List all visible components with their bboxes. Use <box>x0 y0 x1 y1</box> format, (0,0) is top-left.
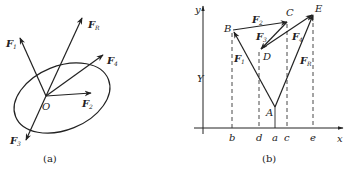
force-arrow-f4 <box>46 55 103 96</box>
tick-label-d: d <box>256 132 262 143</box>
force-label-f2: F2 <box>81 98 93 110</box>
vector-f4 <box>261 15 312 49</box>
point-label-b: B <box>223 23 231 34</box>
vector-label-f3: F3 <box>255 31 267 43</box>
tick-label-e: e <box>310 132 316 143</box>
y-annotation: Y <box>197 73 205 84</box>
figure-a: F1 FR F4 F2 F3 O (a) <box>4 18 121 164</box>
origin-label: O <box>42 101 50 112</box>
vector-label-f4: F4 <box>291 31 303 43</box>
tick-label-c: c <box>284 132 290 143</box>
tick-label-a: a <box>272 132 278 143</box>
vector-label-f1: F1 <box>233 53 245 65</box>
force-arrow-f1 <box>20 38 46 96</box>
force-label-f1: F1 <box>5 38 17 50</box>
body-ellipse <box>4 50 121 147</box>
vector-label-f2: F2 <box>251 14 263 26</box>
force-label-f3: F3 <box>9 135 21 147</box>
x-axis-label: x <box>337 133 343 144</box>
figure-b: y x Y b d a c e B C D E A F1 F2 F3 F4 FR… <box>194 3 343 164</box>
force-arrow-fr <box>46 18 82 96</box>
force-label-fr: FR <box>87 19 100 31</box>
force-diagrams: F1 FR F4 F2 F3 O (a) y x Y b d a c e B <box>0 0 346 169</box>
point-label-d: D <box>262 51 271 62</box>
tick-label-b: b <box>229 132 235 143</box>
vector-label-fr: FR <box>299 55 312 67</box>
force-label-f4: F4 <box>106 55 118 67</box>
force-arrow-f2 <box>46 93 91 96</box>
point-label-c: C <box>286 7 294 18</box>
caption-b: (b) <box>262 153 276 164</box>
caption-a: (a) <box>43 153 57 164</box>
y-axis-label: y <box>194 4 201 15</box>
point-label-e: E <box>314 3 323 14</box>
point-label-a: A <box>265 107 273 118</box>
